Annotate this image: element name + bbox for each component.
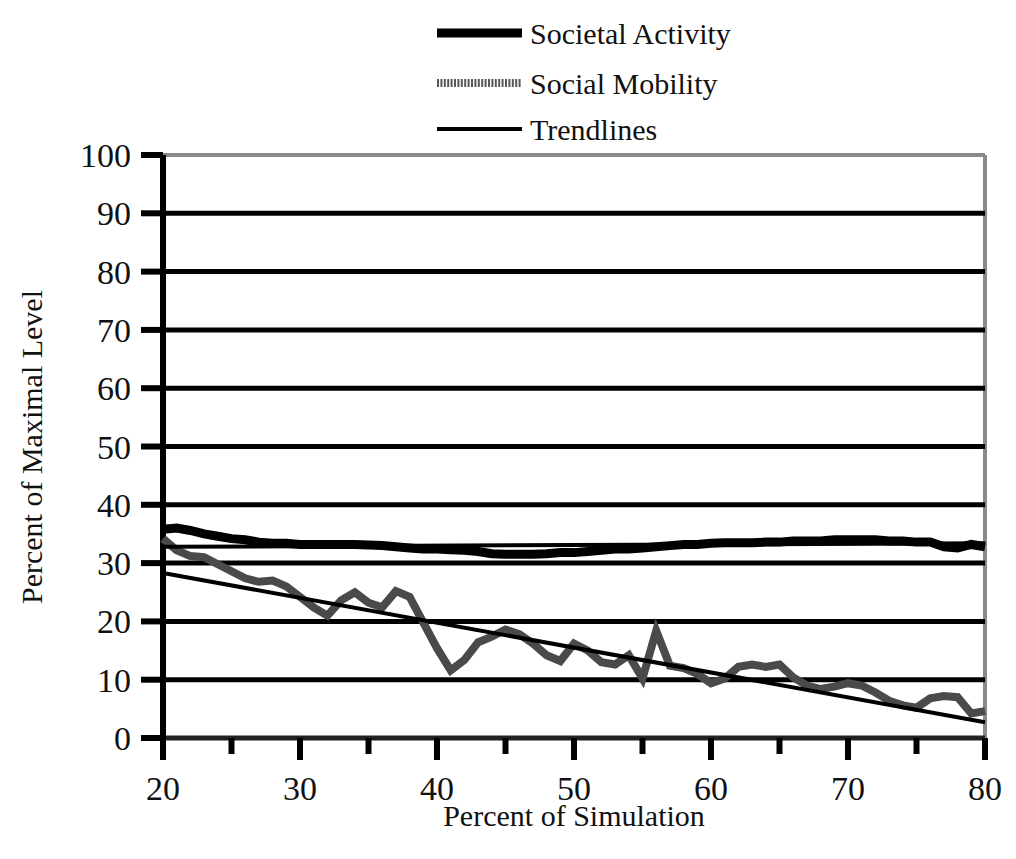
y-axis-tick-label: 40 bbox=[97, 487, 131, 524]
y-axis-tick-label: 60 bbox=[97, 370, 131, 407]
y-axis-tick-label: 100 bbox=[80, 137, 131, 174]
y-axis-title: Percent of Maximal Level bbox=[15, 290, 48, 604]
y-axis-tick-label: 30 bbox=[97, 545, 131, 582]
legend-label: Social Mobility bbox=[530, 67, 718, 100]
y-axis-tick-label: 90 bbox=[97, 195, 131, 232]
line-chart: Societal ActivitySocial MobilityTrendlin… bbox=[0, 0, 1016, 859]
legend-label: Trendlines bbox=[530, 113, 657, 146]
y-axis-tick-label: 10 bbox=[97, 662, 131, 699]
x-axis-tick-label: 70 bbox=[831, 770, 865, 807]
chart-figure: Societal ActivitySocial MobilityTrendlin… bbox=[0, 0, 1016, 859]
legend-label: Societal Activity bbox=[530, 17, 731, 50]
x-axis-title: Percent of Simulation bbox=[443, 799, 705, 832]
y-axis-tick-label: 0 bbox=[114, 720, 131, 757]
y-axis-tick-label: 70 bbox=[97, 312, 131, 349]
y-axis-tick-label: 50 bbox=[97, 429, 131, 466]
x-axis-tick-label: 30 bbox=[283, 770, 317, 807]
x-axis-tick-label: 20 bbox=[146, 770, 180, 807]
y-axis-tick-label: 20 bbox=[97, 603, 131, 640]
x-axis-tick-label: 80 bbox=[968, 770, 1002, 807]
y-axis-tick-label: 80 bbox=[97, 254, 131, 291]
